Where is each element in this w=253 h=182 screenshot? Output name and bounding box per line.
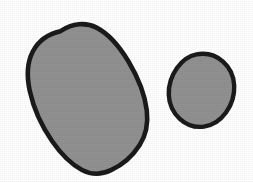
small-blob-shape	[169, 54, 234, 127]
blobs-figure	[0, 0, 253, 182]
figure-canvas	[0, 0, 253, 182]
